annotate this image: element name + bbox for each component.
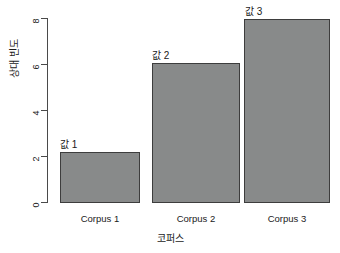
y-tick-label-8: 8 [32,19,41,55]
bar-corpus-2 [152,63,240,203]
bar-label-2: 값 2 [152,51,169,61]
bar-corpus-1 [60,152,140,203]
plot-area [47,10,337,203]
bar-label-1: 값 1 [60,140,77,150]
x-axis-title: 코퍼스 [0,234,340,244]
bar-chart: 8 6 4 2 0 상대 빈도 값 1 값 2 값 3 Corpus 1 Cor… [0,0,340,253]
x-tick-label-corpus-2: Corpus 2 [152,214,240,224]
bar-corpus-3 [244,19,330,203]
bar-label-3: 값 3 [245,7,262,17]
x-tick-label-corpus-3: Corpus 3 [244,214,330,224]
y-axis-title: 상대 빈도 [10,39,20,78]
y-tick-label-2: 2 [32,157,41,193]
x-tick-label-corpus-1: Corpus 1 [60,214,140,224]
y-tick-label-6: 6 [32,65,41,101]
y-tick-label-4: 4 [32,111,41,147]
